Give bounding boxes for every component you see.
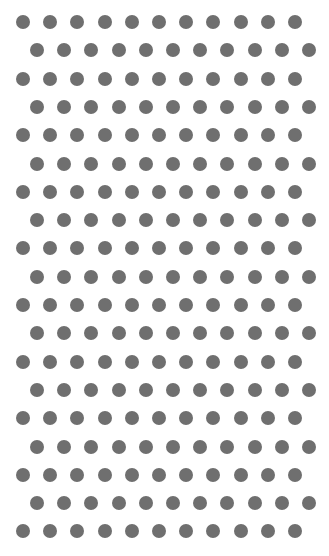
dot-pattern	[0, 0, 329, 556]
dot	[16, 355, 30, 369]
dot	[139, 326, 153, 340]
dot	[206, 468, 220, 482]
dot	[166, 157, 180, 171]
dot	[166, 213, 180, 227]
dot	[139, 270, 153, 284]
dot	[302, 100, 316, 114]
dot	[234, 355, 248, 369]
dot	[125, 411, 139, 425]
dot	[275, 43, 289, 57]
dot	[261, 72, 275, 86]
dot	[166, 326, 180, 340]
dot	[152, 241, 166, 255]
dot	[70, 241, 84, 255]
dot	[179, 468, 193, 482]
dot	[206, 72, 220, 86]
dot	[275, 383, 289, 397]
dot	[220, 270, 234, 284]
dot	[57, 440, 71, 454]
dot	[30, 270, 44, 284]
dot	[248, 213, 262, 227]
dot	[112, 43, 126, 57]
dot	[179, 185, 193, 199]
dot	[261, 185, 275, 199]
dot	[84, 43, 98, 57]
dot	[43, 298, 57, 312]
dot	[43, 241, 57, 255]
dot	[179, 355, 193, 369]
dot	[125, 468, 139, 482]
dot	[166, 270, 180, 284]
dot	[302, 440, 316, 454]
dot	[70, 298, 84, 312]
dot	[179, 72, 193, 86]
dot	[248, 496, 262, 510]
dot	[220, 43, 234, 57]
dot	[30, 326, 44, 340]
dot	[57, 100, 71, 114]
dot	[70, 15, 84, 29]
dot	[125, 72, 139, 86]
dot	[179, 411, 193, 425]
dot	[112, 213, 126, 227]
dot	[125, 241, 139, 255]
dot	[193, 213, 207, 227]
dot	[234, 468, 248, 482]
dot	[288, 411, 302, 425]
dot	[43, 524, 57, 538]
dot	[248, 270, 262, 284]
dot	[84, 100, 98, 114]
dot	[125, 524, 139, 538]
dot	[152, 355, 166, 369]
dot	[166, 496, 180, 510]
dot	[248, 440, 262, 454]
dot	[43, 72, 57, 86]
dot	[302, 496, 316, 510]
dot	[275, 326, 289, 340]
dot	[16, 298, 30, 312]
dot	[43, 411, 57, 425]
dot	[43, 15, 57, 29]
dot	[98, 524, 112, 538]
dot	[193, 100, 207, 114]
dot	[98, 128, 112, 142]
dot	[98, 355, 112, 369]
dot	[16, 185, 30, 199]
dot	[139, 383, 153, 397]
dot	[302, 326, 316, 340]
dot	[16, 468, 30, 482]
dot	[206, 241, 220, 255]
dot	[84, 496, 98, 510]
dot	[112, 440, 126, 454]
dot	[248, 326, 262, 340]
dot	[220, 213, 234, 227]
dot	[206, 411, 220, 425]
dot	[302, 43, 316, 57]
dot	[43, 355, 57, 369]
dot	[206, 185, 220, 199]
dot	[43, 128, 57, 142]
dot	[220, 440, 234, 454]
dot	[98, 15, 112, 29]
dot	[125, 15, 139, 29]
dot	[193, 157, 207, 171]
dot	[275, 213, 289, 227]
dot	[261, 524, 275, 538]
dot	[179, 15, 193, 29]
dot	[261, 298, 275, 312]
dot	[98, 72, 112, 86]
dot	[57, 270, 71, 284]
dot	[84, 383, 98, 397]
dot	[275, 496, 289, 510]
dot	[152, 128, 166, 142]
dot	[43, 468, 57, 482]
dot	[193, 326, 207, 340]
dot	[206, 355, 220, 369]
dot	[193, 383, 207, 397]
dot	[139, 100, 153, 114]
dot	[261, 355, 275, 369]
dot	[179, 128, 193, 142]
dot	[112, 100, 126, 114]
dot	[16, 128, 30, 142]
dot	[220, 383, 234, 397]
